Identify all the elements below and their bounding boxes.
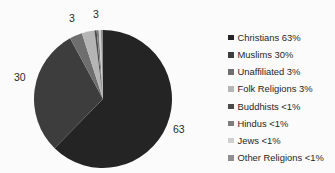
slice-value-label: 3	[93, 9, 99, 20]
legend-swatch-icon	[228, 138, 234, 144]
legend-item-label: Jews <1%	[238, 136, 281, 145]
legend-item: Muslims 30%	[228, 46, 335, 63]
legend-swatch-icon	[228, 104, 234, 110]
pie-area: 333063	[0, 0, 210, 173]
legend-item: Hindus <1%	[228, 115, 335, 132]
chart-legend: Christians 63%Muslims 30%Unaffiliated 3%…	[228, 29, 335, 167]
legend-item-label: Folk Religions 3%	[238, 84, 313, 93]
legend-swatch-icon	[228, 69, 234, 75]
legend-swatch-icon	[228, 121, 234, 127]
legend-item-label: Other Religions <1%	[238, 153, 324, 162]
slice-value-label: 30	[14, 72, 26, 83]
legend-item-label: Christians 63%	[238, 33, 301, 42]
legend-item: Christians 63%	[228, 29, 335, 46]
legend-swatch-icon	[228, 35, 234, 41]
legend-item-label: Muslims 30%	[238, 50, 294, 59]
legend-item: Buddhists <1%	[228, 98, 335, 115]
legend-swatch-icon	[228, 155, 234, 161]
legend-item: Other Religions <1%	[228, 149, 335, 166]
legend-item: Jews <1%	[228, 132, 335, 149]
legend-item-label: Hindus <1%	[238, 119, 289, 128]
pie-svg	[0, 0, 210, 173]
legend-item-label: Buddhists <1%	[238, 102, 301, 111]
pie-chart: 333063 Christians 63%Muslims 30%Unaffili…	[0, 0, 335, 173]
legend-swatch-icon	[228, 52, 234, 58]
legend-item: Folk Religions 3%	[228, 81, 335, 98]
pie-slices	[34, 30, 172, 168]
legend-swatch-icon	[228, 86, 234, 92]
legend-item: Unaffiliated 3%	[228, 63, 335, 80]
legend-item-label: Unaffiliated 3%	[238, 67, 301, 76]
slice-value-label: 3	[69, 13, 75, 24]
slice-value-label: 63	[173, 124, 185, 135]
